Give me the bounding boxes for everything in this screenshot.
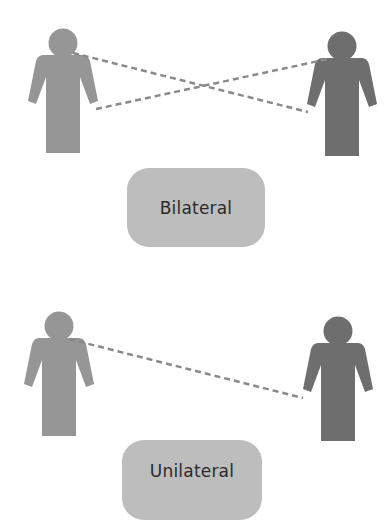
unilateral-panel	[24, 312, 373, 442]
unilateral-label-box: Unilateral	[122, 440, 262, 520]
dashed-connection-line	[69, 339, 303, 398]
left-person-icon	[28, 29, 98, 154]
unilateral-label: Unilateral	[150, 461, 234, 481]
right-person-icon	[307, 32, 377, 157]
bilateral-label-box: Bilateral	[127, 168, 265, 247]
dashed-connection-line	[96, 59, 328, 109]
bilateral-panel	[28, 29, 377, 157]
left-person-icon	[24, 312, 94, 437]
right-person-icon	[303, 317, 373, 442]
bilateral-label: Bilateral	[160, 198, 233, 218]
dashed-connection-line	[73, 53, 308, 112]
